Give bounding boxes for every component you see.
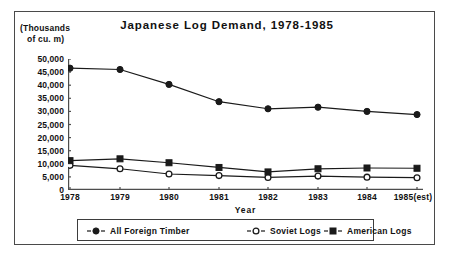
data-point <box>117 156 123 162</box>
chart-title: Japanese Log Demand, 1978-1985 <box>82 19 372 31</box>
legend-symbol <box>93 228 99 234</box>
data-point <box>216 173 222 179</box>
legend-symbol <box>253 228 259 234</box>
x-tick-label: 1984 <box>357 192 377 202</box>
data-point <box>166 171 172 177</box>
chart-legend: All Foreign TimberSoviet LogsAmerican Lo… <box>77 219 374 241</box>
data-point <box>414 175 420 181</box>
y-tick-label: 50,000 <box>18 54 64 64</box>
x-axis-title: Year <box>68 205 423 215</box>
data-point <box>265 106 271 112</box>
data-point <box>117 66 123 72</box>
data-point <box>68 158 73 164</box>
data-point <box>364 174 370 180</box>
data-point <box>315 173 321 179</box>
series-line-0 <box>70 68 417 114</box>
data-point <box>166 160 172 166</box>
data-point <box>117 166 123 172</box>
y-tick-label: 15,000 <box>18 146 64 156</box>
legend-marker-filled-circle <box>86 226 106 236</box>
data-point <box>315 166 321 172</box>
legend-marker-open-circle <box>246 226 266 236</box>
data-point <box>315 104 321 110</box>
plot-area <box>68 59 423 190</box>
x-axis-tick-labels: 19781979198019811982198319841985(est) <box>0 192 452 206</box>
y-tick-label: 40,000 <box>18 80 64 90</box>
legend-item[interactable]: Soviet Logs <box>246 224 321 238</box>
y-tick-label: 20,000 <box>18 133 64 143</box>
data-point <box>68 65 73 71</box>
data-point <box>364 165 370 171</box>
legend-symbol <box>330 228 336 234</box>
y-tick-label: 30,000 <box>18 106 64 116</box>
data-point <box>265 169 271 175</box>
legend-item-label: American Logs <box>347 226 412 236</box>
legend-item[interactable]: American Logs <box>323 224 412 238</box>
data-point <box>414 165 420 171</box>
legend-marker-filled-square <box>323 226 343 236</box>
y-axis-tick-labels: 05,00010,00015,00020,00025,00030,00035,0… <box>14 0 64 262</box>
plot-svg <box>68 59 423 190</box>
x-tick-label: 1981 <box>209 192 229 202</box>
chart-figure: Japanese Log Demand, 1978-1985 (Thousand… <box>0 0 452 262</box>
legend-item-label: Soviet Logs <box>270 226 321 236</box>
y-tick-label: 10,000 <box>18 159 64 169</box>
data-point <box>364 108 370 114</box>
y-tick-label: 5,000 <box>18 172 64 182</box>
x-tick-label: 1978 <box>60 192 80 202</box>
x-tick-label: 1983 <box>308 192 328 202</box>
y-tick-label: 35,000 <box>18 93 64 103</box>
x-tick-label: 1985(est) <box>394 192 433 202</box>
data-point <box>166 81 172 87</box>
y-tick-label: 25,000 <box>18 120 64 130</box>
y-tick-label: 45,000 <box>18 67 64 77</box>
x-tick-label: 1979 <box>110 192 130 202</box>
legend-item-label: All Foreign Timber <box>110 226 189 236</box>
data-point <box>216 99 222 105</box>
x-tick-label: 1982 <box>258 192 278 202</box>
data-point <box>216 164 222 170</box>
legend-item[interactable]: All Foreign Timber <box>86 224 189 238</box>
x-tick-label: 1980 <box>159 192 179 202</box>
data-point <box>414 111 420 117</box>
